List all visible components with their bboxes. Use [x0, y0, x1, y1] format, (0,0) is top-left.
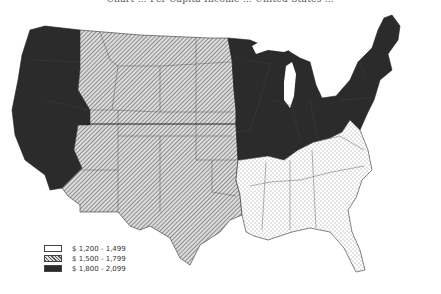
region-far-west [12, 26, 90, 190]
legend-item-high: $ 1,800 - 2,099 [44, 264, 126, 273]
legend-label-high: $ 1,800 - 2,099 [72, 265, 126, 273]
hatch-swatch-icon [44, 255, 62, 262]
legend: $ 1,200 - 1,499 $ 1,500 - 1,799 $ 1,800 … [44, 244, 126, 274]
region-mountain-plains-southwest [62, 30, 242, 265]
legend-label-low: $ 1,200 - 1,499 [72, 245, 126, 253]
solid-swatch-icon [44, 265, 62, 272]
stipple-swatch-icon [44, 245, 62, 252]
legend-label-mid: $ 1,500 - 1,799 [72, 255, 126, 263]
legend-item-low: $ 1,200 - 1,499 [44, 244, 126, 253]
legend-item-mid: $ 1,500 - 1,799 [44, 254, 126, 263]
region-northeast-midwest [228, 15, 400, 160]
